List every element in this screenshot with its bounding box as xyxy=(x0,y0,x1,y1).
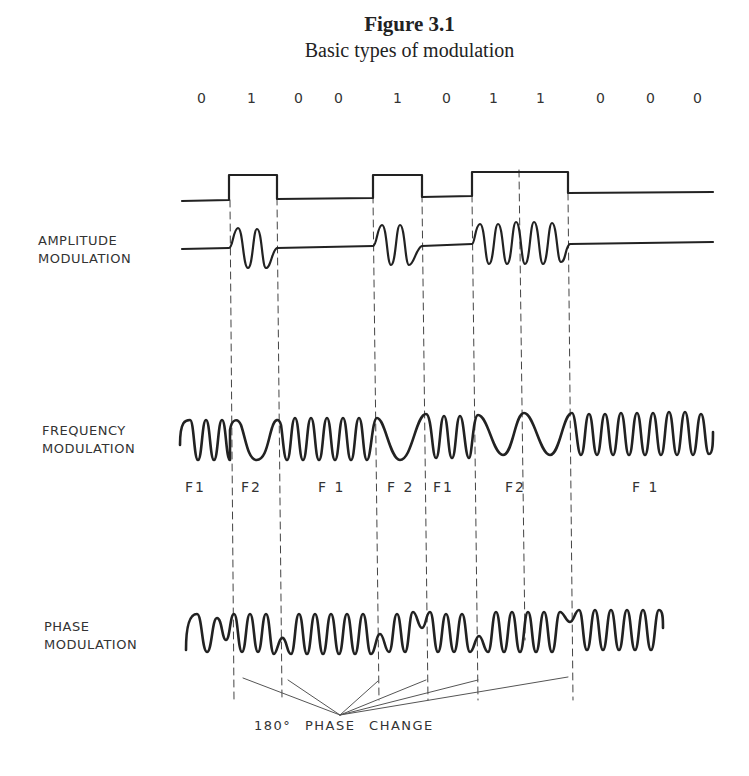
am-waveform xyxy=(182,222,713,268)
fm-waveform xyxy=(180,412,713,460)
phase-change-callouts xyxy=(243,677,568,715)
pm-waveform xyxy=(186,610,663,654)
modulation-diagram xyxy=(0,0,749,776)
digital-signal xyxy=(182,172,713,201)
